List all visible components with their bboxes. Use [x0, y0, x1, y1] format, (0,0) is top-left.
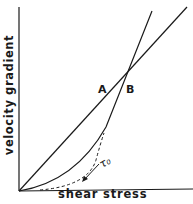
curve-a-label: A — [98, 83, 107, 96]
diagram-canvas: A B τ₀ — [0, 0, 193, 204]
curve-b-label: B — [126, 83, 134, 96]
curve-b-line — [19, 11, 152, 191]
flow-curve-diagram: A B τ₀ velocity gradient shear stress — [0, 0, 193, 204]
y-axis-label: velocity gradient — [2, 35, 16, 155]
y-axis-label-container: velocity gradient — [1, 30, 17, 160]
yield-value-label: τ₀ — [97, 154, 114, 171]
x-axis-label: shear stress — [58, 187, 147, 201]
yield-arrow-shaft — [84, 164, 99, 180]
